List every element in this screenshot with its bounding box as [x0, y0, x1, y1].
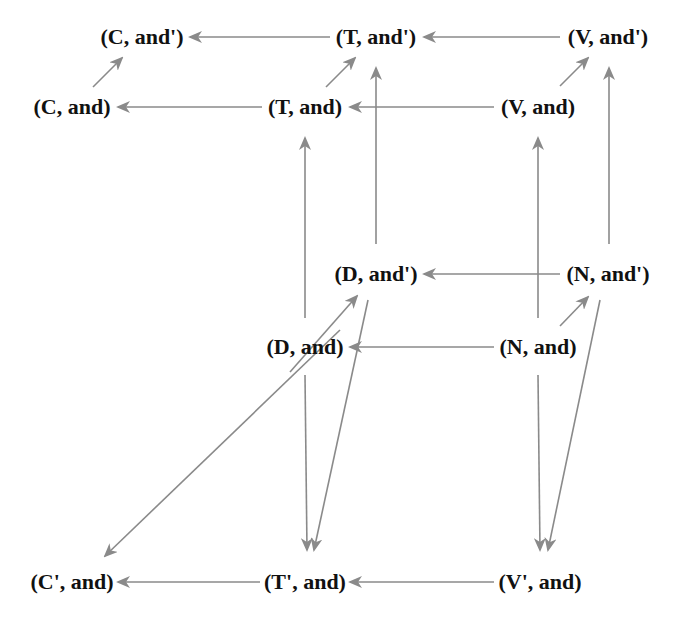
edge-arrow — [326, 58, 355, 87]
edge-arrow — [538, 375, 540, 550]
node-label: (V', and) — [498, 571, 581, 593]
node-label: (N, and) — [499, 336, 576, 358]
node-label: (D, and') — [334, 263, 417, 285]
node-label: (C, and) — [33, 96, 110, 118]
diagram-canvas: (C, and')(T, and')(V, and')(C, and)(T, a… — [0, 0, 678, 621]
edge-arrow — [560, 297, 588, 326]
node-label: (T', and) — [264, 571, 346, 593]
node-label: (N, and') — [566, 263, 649, 285]
node-label: (D, and) — [266, 336, 343, 358]
node-label: (T, and') — [336, 26, 416, 48]
node-label: (C, and') — [100, 26, 183, 48]
node-label: (V, and) — [501, 96, 575, 118]
node-label: (C', and) — [30, 571, 113, 593]
node-label: (T, and) — [268, 96, 342, 118]
edge-arrow — [93, 58, 122, 87]
edge-arrow — [560, 58, 588, 86]
node-label: (V, and') — [568, 26, 648, 48]
edge-arrow — [105, 330, 340, 556]
edge-arrow — [305, 375, 307, 550]
